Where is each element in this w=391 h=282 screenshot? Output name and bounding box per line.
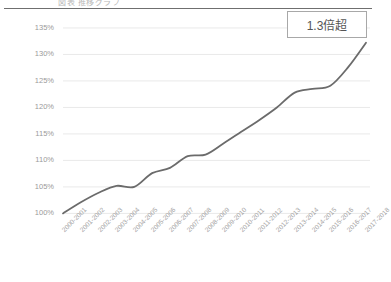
gridlines	[63, 28, 370, 213]
y-axis-tick-label: 135%	[10, 24, 54, 32]
y-axis-tick-label: 130%	[10, 50, 54, 58]
data-line-series-index	[63, 43, 366, 214]
callout-box: 1.3倍超	[287, 11, 367, 38]
y-axis-tick-label: 115%	[10, 130, 54, 138]
y-axis-tick-label: 120%	[10, 103, 54, 111]
y-axis-tick-label: 100%	[10, 209, 54, 217]
callout-label: 1.3倍超	[307, 16, 348, 33]
y-axis-tick-label: 105%	[10, 183, 54, 191]
y-axis-tick-label: 110%	[10, 156, 54, 164]
y-axis-tick-label: 125%	[10, 77, 54, 85]
